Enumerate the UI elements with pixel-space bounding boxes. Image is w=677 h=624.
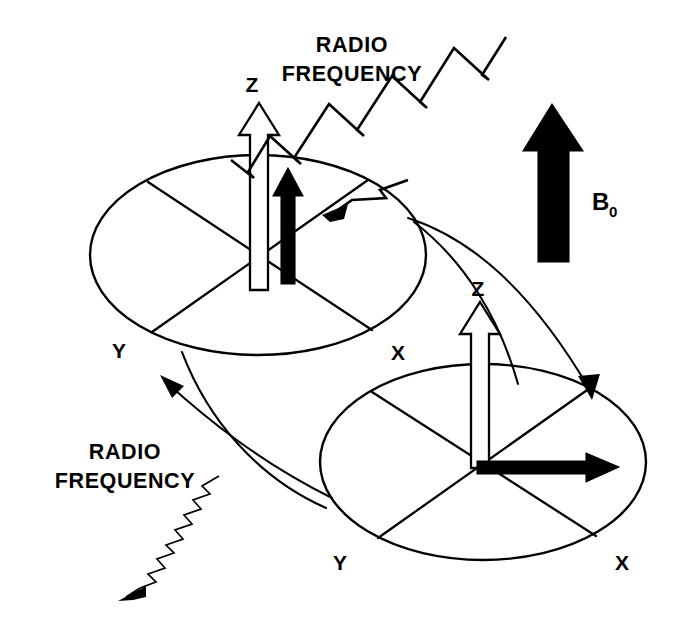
nmr-diagram-figure: Z X Y Z X Y B 0 (0, 0, 677, 624)
top-frame-y-label: Y (112, 339, 126, 362)
bottom-coordinate-frame: Z X Y (320, 277, 646, 574)
b0-label: B (592, 188, 609, 215)
top-frame-x-label: X (391, 341, 405, 364)
bottom-frame-x-label: X (615, 551, 629, 574)
rf-bottom-label-line2: FREQUENCY (55, 469, 195, 493)
bottom-frame-magnetization-vector (477, 453, 619, 482)
rf-top-label-line2: FREQUENCY (282, 62, 422, 86)
nmr-vector-diagram-canvas: Z X Y Z X Y B 0 (0, 0, 677, 624)
b0-field-group: B 0 (523, 104, 617, 262)
bottom-frame-z-label: Z (472, 277, 485, 300)
rf-emission-group: RADIO FREQUENCY (55, 440, 219, 601)
rf-bottom-label-line1: RADIO (89, 440, 161, 464)
top-frame-z-label: Z (246, 73, 259, 96)
bottom-frame-y-label: Y (333, 551, 347, 574)
b0-subscript-label: 0 (609, 203, 617, 220)
b0-field-arrow (523, 104, 583, 262)
rf-top-label-line1: RADIO (316, 33, 388, 57)
rf-absorption-wave (231, 37, 506, 178)
top-coordinate-frame: Z X Y (90, 73, 426, 364)
bottom-frame-z-axis-arrow (460, 302, 500, 468)
